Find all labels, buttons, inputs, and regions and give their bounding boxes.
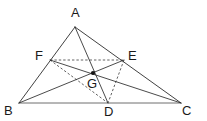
- figure-canvas: [0, 0, 207, 121]
- vertex-label-a: A: [71, 6, 80, 19]
- vertex-label-g: G: [87, 77, 97, 90]
- vertex-label-b: B: [4, 104, 13, 117]
- centroid-point: [91, 71, 95, 75]
- side-AC: [75, 27, 181, 103]
- vertex-label-c: C: [182, 104, 191, 117]
- solid-segments-layer: [19, 27, 181, 103]
- vertex-label-f: F: [35, 49, 43, 62]
- point-markers-layer: [91, 71, 95, 75]
- geometry-figure: A B C D E F G: [0, 0, 207, 121]
- vertex-label-e: E: [128, 49, 137, 62]
- midsegment-FD: [50, 60, 108, 103]
- cevian-CF: [50, 60, 181, 103]
- vertex-label-d: D: [104, 105, 113, 118]
